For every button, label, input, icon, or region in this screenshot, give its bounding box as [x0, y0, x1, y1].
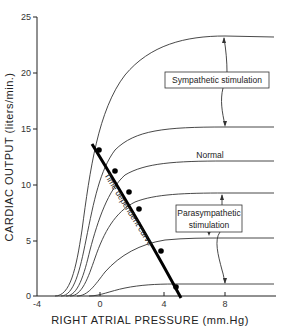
cardiac-output-chart: 25 20 15 10 5 0 -4 0 4 8 RIGHT ATRIAL PR… [0, 0, 284, 330]
curve-parasympathetic-max [89, 284, 274, 296]
normal-label: Normal [196, 150, 224, 160]
sympathetic-annotation: Sympathetic stimulation [165, 37, 269, 127]
time-dependent-curve: Time dependent curve [92, 144, 181, 298]
x-tick-label: 0 [97, 299, 102, 309]
y-tick-label: 25 [21, 12, 31, 22]
x-tick-label: 8 [222, 299, 227, 309]
y-tick-label: 0 [26, 291, 31, 301]
x-tick-label: 4 [161, 299, 166, 309]
parasympathetic-label-1: Parasympathetic [177, 208, 241, 218]
time-dependent-label: Time dependent curve [102, 171, 155, 248]
curve-point [158, 248, 164, 254]
curve-point [173, 284, 179, 290]
x-ticks: -4 0 4 8 [33, 292, 228, 309]
x-axis-label: RIGHT ATRIAL PRESSURE (mm.Hg) [51, 314, 249, 326]
y-tick-label: 5 [26, 236, 31, 246]
x-tick-label: -4 [33, 299, 41, 309]
parasympathetic-label-2: stimulation [189, 220, 230, 230]
curve-point [96, 147, 102, 153]
y-tick-label: 20 [21, 68, 31, 78]
y-tick-label: 10 [21, 180, 31, 190]
sympathetic-label: Sympathetic stimulation [172, 75, 262, 85]
curve-point [126, 189, 132, 195]
y-tick-label: 15 [21, 124, 31, 134]
y-axis-label: CARDIAC OUTPUT (liters/min.) [3, 72, 15, 241]
y-ticks: 25 20 15 10 5 0 [21, 12, 37, 301]
